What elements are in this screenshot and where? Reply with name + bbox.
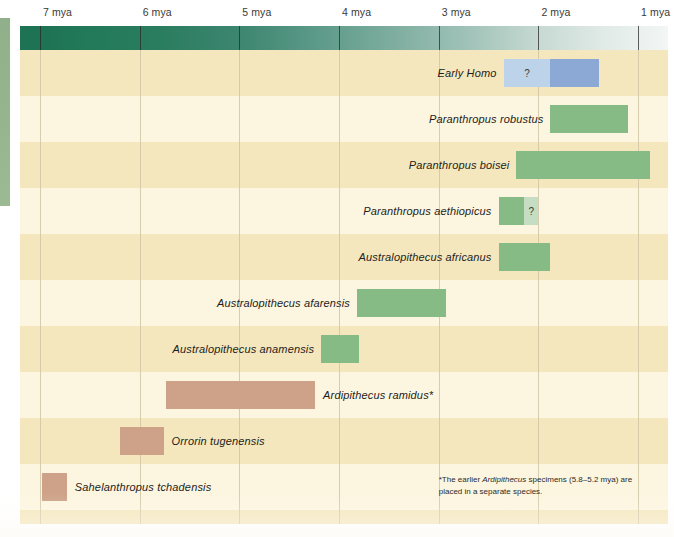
- range-bar-ardipithecus-ramidus[interactable]: [166, 381, 316, 409]
- species-row-paranthropus-robustus: Paranthropus robustus: [20, 96, 668, 142]
- era-tick-6mya: [140, 26, 141, 50]
- species-label-text: Australopithecus africanus: [359, 251, 492, 263]
- species-label-paranthropus-robustus: Paranthropus robustus: [429, 113, 543, 125]
- species-label-text: Paranthropus aethiopicus: [363, 205, 491, 217]
- left-edge-green-strip: [0, 18, 10, 206]
- era-tick-4mya: [339, 26, 340, 50]
- range-segment-early-homo-0[interactable]: ?: [504, 59, 551, 87]
- species-label-text: Sahelanthropus tchadensis: [75, 481, 211, 493]
- species-label-text: Australopithecus anamensis: [173, 343, 314, 355]
- axis-tick-label-5mya: 5 mya: [242, 6, 271, 18]
- species-label-australopithecus-anamensis: Australopithecus anamensis: [173, 343, 314, 355]
- range-bar-australopithecus-africanus[interactable]: [499, 243, 551, 271]
- species-label-sahelanthropus-tchadensis: Sahelanthropus tchadensis: [75, 481, 211, 493]
- footnote: *The earlier Ardipithecus specimens (5.8…: [439, 474, 649, 497]
- range-segment-sahelanthropus-tchadensis-0[interactable]: [42, 473, 67, 501]
- range-segment-australopithecus-afarensis-0[interactable]: [357, 289, 446, 317]
- species-label-text: Early: [438, 67, 467, 79]
- era-tick-2mya: [538, 26, 539, 50]
- range-segment-paranthropus-robustus-0[interactable]: [550, 105, 628, 133]
- axis-tick-label-1mya: 1 mya: [641, 6, 670, 18]
- footnote-genus: Ardipithecus: [482, 475, 526, 484]
- axis-tick-label-2mya: 2 mya: [541, 6, 570, 18]
- range-bar-paranthropus-aethiopicus[interactable]: ?: [499, 197, 539, 225]
- range-bar-early-homo[interactable]: ?: [504, 59, 600, 87]
- species-label-genus: Homo: [467, 67, 497, 79]
- era-gradient-bar: [20, 26, 668, 50]
- species-row-australopithecus-anamensis: Australopithecus anamensis: [20, 326, 668, 372]
- species-row-early-homo: ?Early Homo: [20, 50, 668, 96]
- axis-tick-label-3mya: 3 mya: [442, 6, 471, 18]
- species-label-text: Ardipithecus ramidus*: [323, 389, 433, 401]
- axis-tick-label-7mya: 7 mya: [43, 6, 72, 18]
- species-label-australopithecus-afarensis: Australopithecus afarensis: [217, 297, 350, 309]
- species-label-paranthropus-aethiopicus: Paranthropus aethiopicus: [363, 205, 491, 217]
- range-segment-early-homo-1[interactable]: [550, 59, 599, 87]
- range-segment-ardipithecus-ramidus-0[interactable]: [166, 381, 316, 409]
- era-tick-7mya: [40, 26, 41, 50]
- species-row-ardipithecus-ramidus: Ardipithecus ramidus*: [20, 372, 668, 418]
- uncertainty-marker: ?: [529, 206, 535, 217]
- axis-tick-label-4mya: 4 mya: [342, 6, 371, 18]
- uncertainty-marker: ?: [524, 68, 530, 79]
- range-segment-paranthropus-aethiopicus-1[interactable]: ?: [524, 197, 538, 225]
- species-row-paranthropus-aethiopicus: ?Paranthropus aethiopicus: [20, 188, 668, 234]
- range-bar-paranthropus-boisei[interactable]: [516, 151, 650, 179]
- species-label-text: Paranthropus boisei: [409, 159, 510, 171]
- species-label-text: Orrorin tugenensis: [172, 435, 265, 447]
- range-bar-australopithecus-anamensis[interactable]: [321, 335, 359, 363]
- range-segment-australopithecus-anamensis-0[interactable]: [321, 335, 359, 363]
- timeline-plot-area: ?Early HomoParanthropus robustusParanthr…: [20, 50, 668, 524]
- timeline-figure: 7 mya6 mya5 mya4 mya3 mya2 mya1 mya ?Ear…: [0, 0, 674, 537]
- species-label-orrorin-tugenensis: Orrorin tugenensis: [172, 435, 265, 447]
- range-segment-paranthropus-boisei-0[interactable]: [516, 151, 650, 179]
- species-row-paranthropus-boisei: Paranthropus boisei: [20, 142, 668, 188]
- species-label-text: Paranthropus robustus: [429, 113, 543, 125]
- range-segment-australopithecus-africanus-0[interactable]: [499, 243, 551, 271]
- species-label-text: Australopithecus afarensis: [217, 297, 350, 309]
- era-tick-1mya: [638, 26, 639, 50]
- range-bar-orrorin-tugenensis[interactable]: [120, 427, 164, 455]
- footnote-prefix: *The earlier: [439, 475, 483, 484]
- axis-tick-label-6mya: 6 mya: [143, 6, 172, 18]
- row-band: [20, 510, 668, 524]
- range-segment-paranthropus-aethiopicus-0[interactable]: [499, 197, 525, 225]
- species-label-paranthropus-boisei: Paranthropus boisei: [409, 159, 510, 171]
- species-label-australopithecus-africanus: Australopithecus africanus: [359, 251, 492, 263]
- species-row-australopithecus-afarensis: Australopithecus afarensis: [20, 280, 668, 326]
- range-segment-orrorin-tugenensis-0[interactable]: [120, 427, 164, 455]
- species-label-ardipithecus-ramidus: Ardipithecus ramidus*: [323, 389, 433, 401]
- species-row-orrorin-tugenensis: Orrorin tugenensis: [20, 418, 668, 464]
- species-row-australopithecus-africanus: Australopithecus africanus: [20, 234, 668, 280]
- range-bar-australopithecus-afarensis[interactable]: [357, 289, 446, 317]
- era-tick-5mya: [239, 26, 240, 50]
- species-label-early-homo: Early Homo: [438, 67, 497, 79]
- range-bar-sahelanthropus-tchadensis[interactable]: [42, 473, 67, 501]
- era-tick-3mya: [439, 26, 440, 50]
- range-bar-paranthropus-robustus[interactable]: [550, 105, 628, 133]
